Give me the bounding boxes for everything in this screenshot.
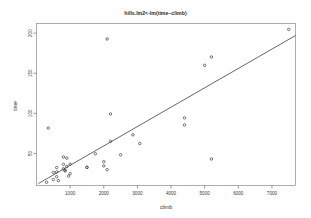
- chart-title: hills.lm2<-lm(time~climb): [124, 10, 187, 16]
- r-plot-window: hills.lm2<-lm(time~climb) 10002000300040…: [0, 0, 311, 218]
- x-axis-title: climb: [160, 204, 172, 210]
- x-tick-label: 6000: [233, 191, 244, 196]
- y-tick-label: 150: [28, 69, 33, 77]
- x-tick-label: 7000: [267, 191, 278, 196]
- x-tick-label: 5000: [200, 191, 211, 196]
- x-tick-label: 4000: [166, 191, 177, 196]
- y-axis-title: time: [12, 101, 18, 111]
- x-tick-label: 1000: [65, 191, 76, 196]
- x-tick-label: 2000: [99, 191, 110, 196]
- y-tick-label: 100: [28, 109, 33, 117]
- x-tick-label: 3000: [132, 191, 143, 196]
- scatter-plot-figure: hills.lm2<-lm(time~climb) 10002000300040…: [0, 0, 311, 218]
- y-tick-label: 50: [28, 150, 33, 156]
- y-tick-label: 200: [28, 29, 33, 37]
